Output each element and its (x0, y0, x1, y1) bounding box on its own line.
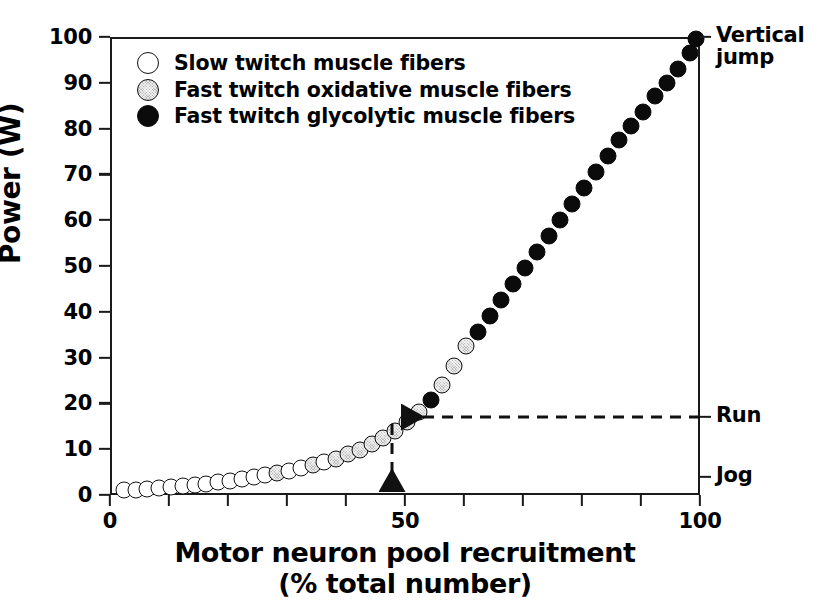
data-point-glyc (658, 74, 675, 91)
y-tick (99, 173, 110, 175)
x-tick-label: 50 (391, 509, 420, 533)
data-point-glyc (493, 292, 510, 309)
data-point-glyc (611, 131, 628, 148)
right-label-text: Vertical (716, 25, 804, 47)
data-point-glyc (599, 147, 616, 164)
legend-item-slow: Slow twitch muscle fibers (137, 50, 575, 77)
right-tick-run (700, 416, 711, 418)
y-tick-label: 50 (6, 254, 92, 278)
data-point-glyc (540, 227, 557, 244)
right-label-run: Run (716, 405, 761, 427)
y-tick-label: 20 (6, 391, 92, 415)
data-point-glyc (576, 179, 593, 196)
data-point-glyc (688, 31, 705, 48)
right-label-text-2: jump (716, 47, 804, 69)
data-point-glyc (469, 324, 486, 341)
right-label-text: Run (716, 405, 761, 427)
x-tick-label: 100 (679, 509, 722, 533)
data-point-glyc (587, 163, 604, 180)
data-point-glyc (623, 118, 640, 135)
y-tick-label: 80 (6, 117, 92, 141)
data-point-glyc (422, 391, 439, 408)
legend-label: Fast twitch glycolytic muscle fibers (174, 104, 575, 128)
y-tick (99, 356, 110, 358)
data-point-glyc (670, 60, 687, 77)
y-tick (99, 127, 110, 129)
y-tick (99, 265, 110, 267)
legend-item-oxid: Fast twitch oxidative muscle fibers (137, 77, 575, 104)
right-label-text: Jog (716, 465, 752, 487)
y-tick (99, 219, 110, 221)
data-point-glyc (635, 104, 652, 121)
x-tick (581, 495, 583, 506)
x-tick (168, 495, 170, 506)
data-point-glyc (564, 195, 581, 212)
x-tick (522, 495, 524, 506)
y-tick-label: 100 (6, 25, 92, 49)
x-axis-title-line2: (% total number) (110, 569, 700, 600)
right-tick-vertical-jump (700, 36, 711, 38)
x-tick-label: 0 (103, 509, 117, 533)
legend: Slow twitch muscle fibersFast twitch oxi… (137, 50, 575, 130)
y-tick (99, 311, 110, 313)
data-point-oxid (434, 376, 451, 393)
y-tick-label: 90 (6, 71, 92, 95)
data-point-glyc (505, 276, 522, 293)
y-tick-label: 30 (6, 346, 92, 370)
y-tick (99, 36, 110, 38)
right-label-jog: Jog (716, 465, 752, 487)
legend-marker-oxid-icon (137, 79, 159, 101)
figure-root: Power (W) 0501000102030405060708090100 V… (0, 0, 820, 616)
x-tick (286, 495, 288, 506)
legend-label: Slow twitch muscle fibers (174, 51, 466, 75)
x-tick (227, 495, 229, 506)
legend-item-glyc: Fast twitch glycolytic muscle fibers (137, 103, 575, 130)
data-point-glyc (517, 260, 534, 277)
data-point-glyc (646, 88, 663, 105)
x-axis-title-line1: Motor neuron pool recruitment (110, 538, 700, 569)
x-tick (640, 495, 642, 506)
y-tick (99, 402, 110, 404)
data-point-glyc (481, 308, 498, 325)
legend-marker-slow-icon (137, 52, 159, 74)
x-tick (345, 495, 347, 506)
right-tick-jog (700, 476, 711, 478)
data-point-oxid (458, 337, 475, 354)
legend-marker-glyc-icon (137, 105, 159, 127)
y-tick-label: 60 (6, 208, 92, 232)
x-axis-title: Motor neuron pool recruitment (% total n… (110, 538, 700, 600)
x-tick (404, 495, 406, 506)
data-point-glyc (552, 211, 569, 228)
y-tick (99, 82, 110, 84)
y-tick-label: 10 (6, 437, 92, 461)
x-tick (699, 495, 701, 506)
y-tick-label: 40 (6, 300, 92, 324)
data-point-oxid (446, 358, 463, 375)
x-tick (109, 495, 111, 506)
x-tick (463, 495, 465, 506)
legend-label: Fast twitch oxidative muscle fibers (174, 78, 572, 102)
y-tick (99, 448, 110, 450)
y-tick-label: 70 (6, 162, 92, 186)
data-point-glyc (528, 243, 545, 260)
y-tick-label: 0 (6, 483, 92, 507)
y-tick (99, 494, 110, 496)
right-label-vertical-jump: Verticaljump (716, 25, 804, 69)
